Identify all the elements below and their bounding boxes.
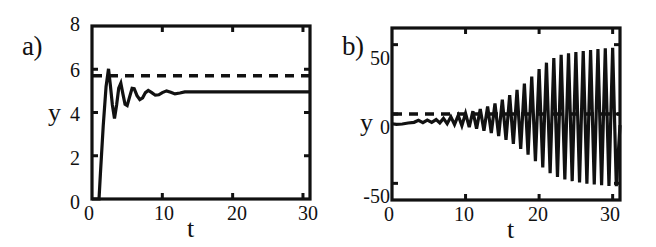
panel-a-y-axis-label: y bbox=[48, 100, 61, 126]
panel-a-xtick-0: 0 bbox=[84, 203, 94, 223]
figure-container: a) y t 0 2 4 6 8 0 10 20 30 b) y t -50 0… bbox=[0, 0, 656, 247]
panel-b: b) y t -50 0 50 0 10 20 30 bbox=[328, 0, 656, 247]
panel-b-xtick-20: 20 bbox=[528, 204, 548, 224]
panel-a-ytick-6: 6 bbox=[62, 60, 80, 80]
panel-b-xtick-10: 10 bbox=[454, 204, 474, 224]
panel-a-ytick-8: 8 bbox=[62, 14, 80, 34]
panel-a: a) y t 0 2 4 6 8 0 10 20 30 bbox=[0, 0, 328, 247]
panel-a-xtick-10: 10 bbox=[154, 203, 174, 223]
panel-b-ytick-0: 0 bbox=[354, 117, 390, 137]
panel-a-ytick-2: 2 bbox=[62, 148, 80, 168]
panel-b-xtick-30: 30 bbox=[600, 204, 620, 224]
panel-b-ytick-50: 50 bbox=[354, 48, 390, 68]
panel-b-xtick-0: 0 bbox=[384, 204, 394, 224]
panel-a-xtick-30: 30 bbox=[298, 203, 318, 223]
panel-a-ytick-4: 4 bbox=[62, 104, 80, 124]
panel-a-xtick-20: 20 bbox=[227, 203, 247, 223]
panel-b-x-axis-label: t bbox=[507, 217, 514, 243]
panel-a-ytick-0: 0 bbox=[62, 192, 80, 212]
panel-a-x-axis-label: t bbox=[187, 216, 194, 242]
panel-a-tag: a) bbox=[22, 33, 42, 60]
